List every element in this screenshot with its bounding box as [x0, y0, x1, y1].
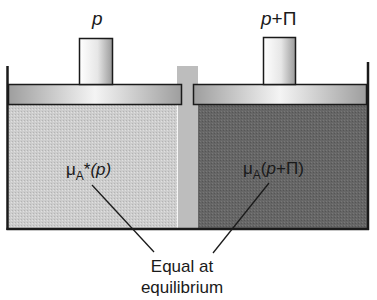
left-pressure-label: p	[92, 9, 103, 28]
left-potential-label: μA*(p)	[66, 161, 111, 178]
caption-line-2: equilibrium	[112, 277, 252, 298]
right-pressure-label: p+Π	[261, 9, 296, 28]
right-mu-symbol: μ	[243, 159, 253, 178]
caption-line-1: Equal at	[112, 256, 252, 277]
left-weight	[80, 39, 113, 85]
right-pressure-var: p	[261, 8, 272, 29]
left-mu-symbol: μ	[66, 160, 76, 179]
left-mu-arg: (p)	[90, 160, 111, 179]
right-potential-label: μA(p+Π)	[243, 160, 304, 177]
right-piston	[194, 85, 367, 105]
right-mu-subscript: A	[253, 168, 261, 182]
right-mu-var: p	[266, 159, 275, 178]
right-mu-rest: +Π)	[276, 159, 304, 178]
right-weight	[264, 38, 296, 85]
left-mu-subscript: A	[76, 169, 84, 183]
left-piston	[9, 85, 182, 105]
right-pressure-osm: Π	[283, 8, 297, 29]
equilibrium-caption: Equal at equilibrium	[112, 256, 252, 298]
osmosis-diagram	[0, 0, 377, 300]
right-pressure-op: +	[272, 8, 283, 29]
